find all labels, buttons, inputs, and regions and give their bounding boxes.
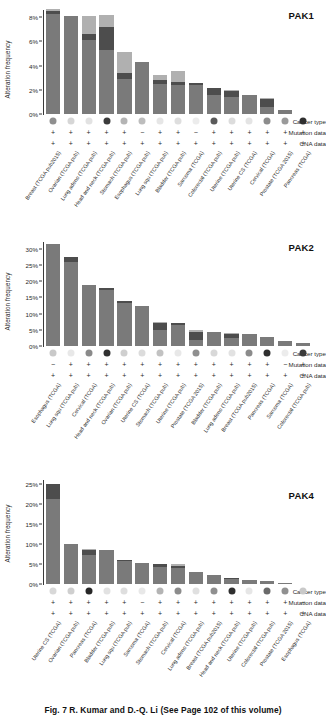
mutation-data-symbol: + bbox=[87, 360, 91, 367]
plot-area-pak2 bbox=[44, 242, 312, 346]
cancer-type-dot bbox=[103, 117, 110, 124]
bar bbox=[153, 75, 167, 114]
mutation-data-symbol: + bbox=[69, 598, 73, 605]
cancer-type-dot bbox=[210, 117, 217, 124]
x-tick-label: Prostate (TCGA 2015) bbox=[169, 382, 205, 429]
cancer-type-dot bbox=[157, 587, 164, 594]
y-axis-label-pak4: Alteration frequency bbox=[1, 478, 13, 588]
bar bbox=[117, 52, 131, 114]
annotation-cells: −++++++++++++−+ bbox=[44, 358, 312, 369]
y-tick-label: 30% bbox=[26, 245, 38, 252]
mutation-data-symbol: + bbox=[247, 598, 251, 605]
bar bbox=[242, 95, 256, 114]
cancer-type-dot bbox=[49, 349, 56, 356]
mutation-data-symbol: + bbox=[87, 128, 91, 135]
mutation-data-symbol: + bbox=[176, 598, 180, 605]
cancer-type-dot bbox=[67, 117, 74, 124]
cna-data-symbol: + bbox=[69, 609, 73, 616]
mutation-data-symbol: + bbox=[212, 128, 216, 135]
cancer-type-dot bbox=[49, 587, 56, 594]
bar-segment bbox=[278, 583, 292, 584]
cna-data-symbol: + bbox=[87, 371, 91, 378]
mutation-data-symbol: + bbox=[247, 128, 251, 135]
mutation-data-symbol: + bbox=[194, 360, 198, 367]
bar-segment bbox=[224, 579, 238, 584]
cancer-type-dot bbox=[49, 117, 56, 124]
bar bbox=[99, 550, 113, 584]
mutation-data-symbol: − bbox=[194, 128, 198, 135]
cancer-type-dot bbox=[85, 349, 92, 356]
cancer-type-dot bbox=[192, 349, 199, 356]
bar-segment bbox=[171, 568, 185, 584]
bar-segment bbox=[260, 107, 274, 114]
figure-caption: Fig. 7 R. Kumar and D.-Q. Li (See Page 1… bbox=[0, 705, 326, 715]
bar-segment bbox=[117, 303, 131, 346]
cancer-type-dot bbox=[300, 587, 307, 594]
annotation-cells bbox=[44, 585, 312, 596]
bar-segment bbox=[135, 306, 149, 346]
cna-data-symbol: + bbox=[69, 371, 73, 378]
cna-data-symbol: + bbox=[104, 609, 108, 616]
cna-data-symbol: + bbox=[51, 609, 55, 616]
cna-data-symbol: + bbox=[176, 139, 180, 146]
annotation-row-mutation-data: Mutation data+++++−++++++++− bbox=[0, 596, 326, 607]
bar-segment bbox=[242, 580, 256, 584]
cna-data-symbol: + bbox=[140, 371, 144, 378]
bar bbox=[82, 285, 96, 346]
plot-area-pak1 bbox=[44, 10, 312, 114]
bar-segment bbox=[278, 110, 292, 114]
mutation-data-symbol: + bbox=[140, 360, 144, 367]
bar-segment bbox=[224, 338, 238, 346]
mutation-data-symbol: + bbox=[265, 128, 269, 135]
y-tick-mark bbox=[39, 65, 42, 66]
x-tick-label: Lung squ (TCGA pub) bbox=[98, 620, 133, 666]
cancer-type-dot bbox=[282, 349, 289, 356]
cna-data-symbol: + bbox=[230, 609, 234, 616]
bar-segment bbox=[153, 84, 167, 114]
bar-segment bbox=[207, 332, 221, 346]
bar bbox=[278, 341, 292, 346]
bar bbox=[82, 16, 96, 114]
annotation-row-cna-data: CNA data+++++++++++++++ bbox=[0, 607, 326, 618]
mutation-data-symbol: + bbox=[212, 360, 216, 367]
bar-segment bbox=[207, 88, 221, 95]
annotation-block-pak1: Cancer typeMutation data+++++−++−++++++C… bbox=[0, 115, 326, 148]
bar-segment bbox=[171, 71, 185, 82]
y-axis-label-pak1: Alteration frequency bbox=[1, 14, 13, 124]
x-tick-label: Colorectal (TCGA pub) bbox=[276, 382, 312, 430]
cna-data-symbol: + bbox=[51, 371, 55, 378]
x-tick-label: Lung squ (TCGA pub) bbox=[134, 150, 169, 196]
bar-segment bbox=[99, 15, 113, 27]
bar bbox=[153, 322, 167, 346]
cna-data-symbol: + bbox=[122, 609, 126, 616]
cancer-type-dot bbox=[210, 349, 217, 356]
bar bbox=[224, 90, 238, 114]
mutation-data-symbol: + bbox=[158, 598, 162, 605]
y-tick-mark bbox=[39, 504, 42, 505]
annotation-row-mutation-data: Mutation data−++++++++++++−+ bbox=[0, 358, 326, 369]
cna-data-symbol: + bbox=[247, 139, 251, 146]
annotation-cells: +++++++++++++++ bbox=[44, 607, 312, 618]
cancer-type-dot bbox=[282, 587, 289, 594]
bar-segment bbox=[82, 16, 96, 34]
cna-data-symbol: + bbox=[212, 139, 216, 146]
mutation-data-symbol: + bbox=[104, 128, 108, 135]
bar-segment bbox=[260, 337, 274, 346]
x-tick-labels-pak1: Breast (TCGA pub2015)Ovarian (TCGA pub)L… bbox=[44, 150, 326, 234]
cancer-type-dot bbox=[246, 117, 253, 124]
mutation-data-symbol: + bbox=[51, 128, 55, 135]
cna-data-symbol: + bbox=[301, 609, 305, 616]
cna-data-symbol: + bbox=[87, 609, 91, 616]
bar bbox=[189, 330, 203, 346]
y-tick-label: 6% bbox=[29, 38, 38, 45]
chart-panel-pak2: PAK2 Alteration frequency 0%5%10%15%20%2… bbox=[0, 232, 326, 464]
cna-data-symbol: + bbox=[265, 371, 269, 378]
cna-data-symbol: + bbox=[194, 609, 198, 616]
cna-data-symbol: + bbox=[230, 139, 234, 146]
cancer-type-dot bbox=[175, 587, 182, 594]
bar bbox=[64, 257, 78, 346]
y-tick-mark bbox=[39, 17, 42, 18]
y-tick-mark bbox=[39, 313, 42, 314]
annotation-row-cna-data: CNA data+++++++++++++++ bbox=[0, 369, 326, 380]
y-tick-label: 5% bbox=[29, 326, 38, 333]
